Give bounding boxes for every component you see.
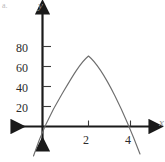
y-tick-label-80: 80 (16, 42, 28, 54)
y-axis-label: y (38, 0, 43, 11)
x-axis-group (12, 121, 150, 127)
chart-figure: a. (0, 0, 165, 162)
y-tick-label-20: 20 (16, 102, 28, 114)
x-tick-label-2: 2 (83, 134, 89, 146)
y-tick-label-40: 40 (16, 82, 28, 94)
x-tick-label-4: 4 (125, 134, 131, 146)
y-tick-label-60: 60 (16, 62, 28, 74)
x-axis-label: x (159, 117, 164, 128)
